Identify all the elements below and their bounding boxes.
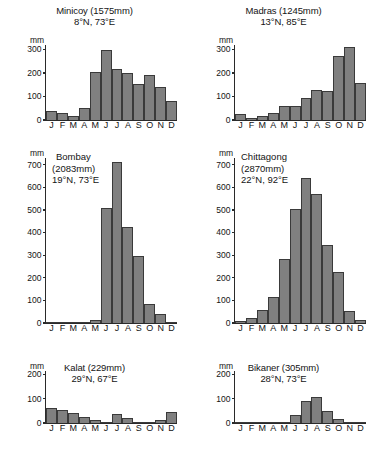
bar-cell (301, 45, 312, 120)
bar (257, 310, 268, 323)
panel-madras: Madras (1245mm) 13°N, 85°E mm JFMAMJJASO… (189, 0, 378, 145)
bar-cell (79, 45, 90, 120)
panel-title-madras: Madras (1245mm) 13°N, 85°E (189, 5, 378, 27)
x-axis-month-label: A (122, 121, 133, 131)
bar-cell (268, 45, 279, 120)
y-axis-tick-mark (232, 72, 235, 73)
bar-cell (90, 45, 101, 120)
bar-cell (101, 45, 112, 120)
x-axis-month-label: J (101, 424, 112, 434)
x-axis-labels-bombay: JFMAMJJASOND (46, 323, 177, 334)
bar-cell (311, 158, 322, 323)
axes-minicoy: JFMAMJJASOND 0100200300 (45, 45, 177, 121)
x-axis-month-label: J (290, 121, 301, 131)
bar-cell (101, 158, 112, 323)
y-axis-tick-mark (43, 119, 46, 120)
y-axis-unit-label: mm (30, 148, 44, 158)
y-axis-tick-label: 400 (216, 228, 232, 237)
bar (68, 413, 79, 423)
bars-chittagong (235, 158, 366, 323)
bar-cell (322, 371, 333, 423)
x-axis-month-label: J (112, 121, 123, 131)
x-axis-month-label: O (144, 424, 155, 434)
bar-cell (235, 371, 246, 423)
x-axis-month-label: D (166, 121, 177, 131)
x-axis-month-label: O (333, 424, 344, 434)
bar-cell (144, 45, 155, 120)
x-axis-month-label: A (268, 324, 279, 334)
axes-kalat: JFMAMJJASOND 0100200 (45, 371, 177, 424)
y-axis-tick-label: 100 (216, 296, 232, 305)
y-axis-tick-mark (232, 96, 235, 97)
y-axis-tick-mark (232, 119, 235, 120)
x-axis-month-label: S (133, 424, 144, 434)
x-axis-month-label: A (311, 324, 322, 334)
bar (301, 178, 312, 323)
bar-cell (257, 371, 268, 423)
bar (279, 259, 290, 323)
bar (322, 411, 333, 423)
bar (290, 209, 301, 323)
bar-cell (57, 158, 68, 323)
plot-kalat: JFMAMJJASOND 0100200 (45, 371, 177, 424)
panel-minicoy: Minicoy (1575mm) 8°N, 73°E mm JFMAMJJASO… (0, 0, 189, 145)
bar-cell (279, 158, 290, 323)
x-axis-month-label: J (301, 324, 312, 334)
plot-madras: JFMAMJJASOND 0100200300 (234, 45, 366, 121)
y-axis-tick-label: 700 (27, 161, 43, 170)
bar-cell (246, 158, 257, 323)
x-axis-month-label: J (46, 324, 57, 334)
panel-kalat: Kalat (229mm) 29°N, 67°E mm JFMAMJJASOND… (0, 352, 189, 451)
y-axis-tick-mark (232, 374, 235, 375)
bar (133, 256, 144, 323)
bar-cell (246, 45, 257, 120)
x-axis-month-label: F (57, 424, 68, 434)
bar (155, 314, 166, 323)
y-axis-tick-mark (43, 164, 46, 165)
axes-bombay: JFMAMJJASOND 0100200300400500600700 (45, 158, 177, 324)
plot-minicoy: JFMAMJJASOND 0100200300 (45, 45, 177, 121)
y-axis-tick-mark (232, 232, 235, 233)
bar-cell (57, 45, 68, 120)
bar (57, 410, 68, 423)
panel-title-line2: 13°N, 85°E (189, 16, 378, 27)
x-axis-labels-chittagong: JFMAMJJASOND (235, 323, 366, 334)
bars-bikaner (235, 371, 366, 423)
y-axis-tick-mark (43, 398, 46, 399)
x-axis-month-label: J (112, 324, 123, 334)
bar-cell (311, 371, 322, 423)
panel-bombay: Bombay (2083mm) 19°N, 73°E mm JFMAMJJASO… (0, 145, 189, 352)
panel-title-minicoy: Minicoy (1575mm) 8°N, 73°E (0, 5, 189, 27)
x-axis-month-label: M (279, 324, 290, 334)
bar-cell (235, 158, 246, 323)
y-axis-tick-mark (232, 398, 235, 399)
y-axis-tick-label: 600 (216, 183, 232, 192)
x-axis-month-label: N (344, 121, 355, 131)
x-axis-month-label: O (333, 121, 344, 131)
x-axis-month-label: A (79, 424, 90, 434)
bar-cell (112, 45, 123, 120)
y-axis-tick-label: 100 (27, 395, 43, 404)
y-axis-tick-mark (43, 209, 46, 210)
bar (133, 84, 144, 120)
bar-cell (166, 371, 177, 423)
bar-cell (46, 158, 57, 323)
bar-cell (166, 158, 177, 323)
bar (46, 111, 57, 120)
x-axis-month-label: J (235, 324, 246, 334)
bar (155, 87, 166, 120)
x-axis-month-label: D (166, 424, 177, 434)
bar (322, 91, 333, 120)
bar (166, 412, 177, 423)
x-axis-month-label: M (90, 324, 101, 334)
y-axis-tick-label: 100 (216, 92, 232, 101)
y-axis-tick-label: 700 (216, 161, 232, 170)
bar-cell (355, 45, 366, 120)
plot-chittagong: JFMAMJJASOND 0100200300400500600700 (234, 158, 366, 324)
bar (101, 208, 112, 323)
x-axis-month-label: M (257, 121, 268, 131)
bar-cell (279, 45, 290, 120)
y-axis-tick-mark (43, 422, 46, 423)
bar-cell (322, 45, 333, 120)
bar-cell (133, 371, 144, 423)
